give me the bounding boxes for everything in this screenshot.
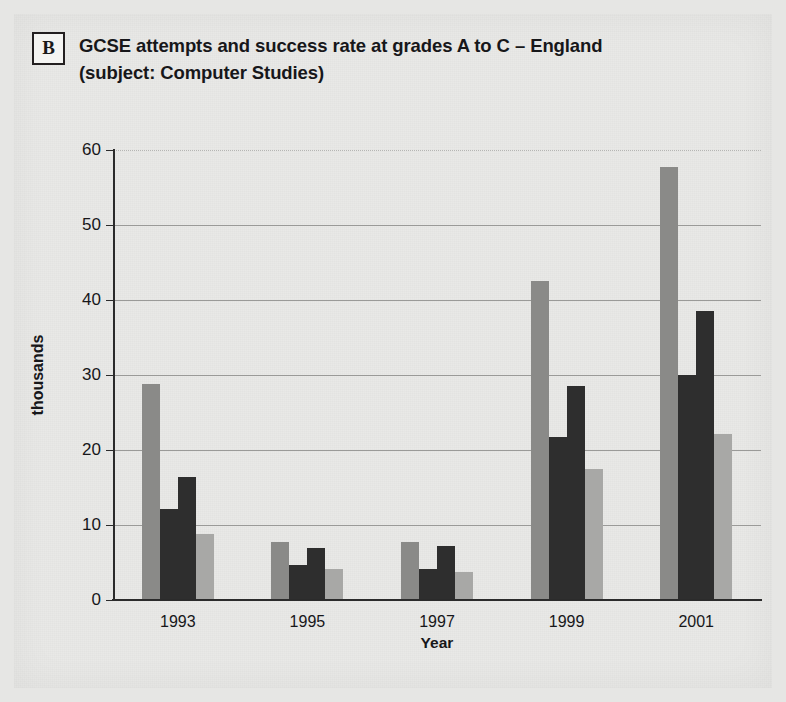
bar-1995-series-4[interactable] [325,569,343,601]
bar-group-bars [243,150,373,600]
y-axis-line [113,149,115,601]
bar-1999-series-3[interactable] [567,386,585,600]
y-tick-mark-20 [106,450,113,451]
bar-1999-series-1[interactable] [531,281,549,600]
bar-1993-series-2[interactable] [160,509,178,601]
y-tick-label-0: 0 [92,590,101,610]
bar-1997-series-1[interactable] [401,542,419,600]
bar-group-2001: 2001 [631,150,761,600]
bar-1997-series-3[interactable] [437,546,455,600]
x-tick-label-2001: 2001 [678,613,714,631]
bar-2001-series-3[interactable] [696,311,714,600]
y-tick-mark-40 [106,300,113,301]
bar-2001-series-2[interactable] [678,375,696,600]
x-tick-label-1993: 1993 [160,613,196,631]
bar-chart: 010203040506019931995199719992001 thousa… [0,0,786,702]
y-tick-mark-60 [106,150,113,151]
bar-2001-series-4[interactable] [714,434,732,601]
bar-group-bars [113,150,243,600]
figure-page: B GCSE attempts and success rate at grad… [0,0,786,702]
bar-1999-series-4[interactable] [585,469,603,600]
bar-1993-series-1[interactable] [142,384,160,600]
bar-1995-series-2[interactable] [289,565,307,600]
y-tick-label-50: 50 [82,215,101,235]
bar-1993-series-3[interactable] [178,477,196,600]
bar-group-1993: 1993 [113,150,243,600]
bar-group-1999: 1999 [502,150,632,600]
bar-1997-series-2[interactable] [419,569,437,601]
y-tick-label-30: 30 [82,365,101,385]
x-axis-label: Year [113,634,761,652]
bar-1997-series-4[interactable] [455,572,473,600]
bar-1993-series-4[interactable] [196,534,214,600]
plot-area: 010203040506019931995199719992001 [113,150,761,600]
bar-group-1997: 1997 [372,150,502,600]
y-tick-label-40: 40 [82,290,101,310]
bar-group-bars [631,150,761,600]
y-tick-mark-50 [106,225,113,226]
y-tick-label-60: 60 [82,140,101,160]
bar-1999-series-2[interactable] [549,437,567,601]
y-tick-mark-10 [106,525,113,526]
x-tick-label-1999: 1999 [549,613,585,631]
bar-1995-series-3[interactable] [307,548,325,601]
y-tick-label-20: 20 [82,440,101,460]
y-tick-mark-30 [106,375,113,376]
y-tick-label-10: 10 [82,515,101,535]
bar-group-1995: 1995 [243,150,373,600]
bar-2001-series-1[interactable] [660,167,678,601]
bar-group-bars [372,150,502,600]
x-tick-label-1997: 1997 [419,613,455,631]
bar-group-bars [502,150,632,600]
x-tick-label-1995: 1995 [290,613,326,631]
x-axis-line [112,599,762,601]
y-axis-label: thousands [29,335,47,416]
bar-1995-series-1[interactable] [271,542,289,600]
